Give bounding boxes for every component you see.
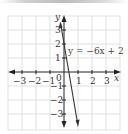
- x-axis-left-arrow-icon: [8, 70, 15, 75]
- y-tick-label: −3: [50, 109, 64, 119]
- y-tick-label: 2: [55, 39, 61, 49]
- coordinate-graph: y x y = −6x + 2 −3 −2 −1 0 1 2 3 3 2 1 −…: [0, 0, 128, 134]
- equation-label: y = −6x + 2: [67, 46, 124, 56]
- y-tick-label: 1: [55, 53, 61, 63]
- x-tick-label: 2: [90, 76, 96, 86]
- y-tick-label: 3: [55, 25, 61, 35]
- x-tick-label: 1: [76, 76, 82, 86]
- y-tick-label: −2: [50, 95, 63, 105]
- y-axis-down-arrow-icon: [62, 121, 67, 128]
- y-tick-label: −1: [50, 81, 63, 91]
- x-tick-label: −2: [28, 76, 41, 86]
- x-axis-label: x: [114, 73, 119, 83]
- y-axis-label: y: [54, 12, 61, 22]
- plotted-line: [61, 23, 78, 123]
- x-tick-label: −3: [13, 76, 27, 86]
- x-tick-label: 3: [104, 76, 110, 86]
